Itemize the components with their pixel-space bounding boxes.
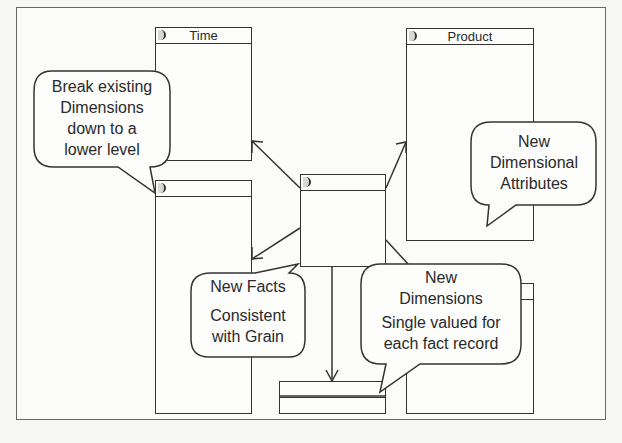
connector-fact-to-lowerright	[386, 240, 408, 264]
callout-new-dimensional-attributes: New Dimensional Attributes	[472, 131, 596, 194]
arrow-fact-to-lowerleft	[252, 228, 300, 259]
callout-new-facts: New Facts Consistent with Grain	[192, 276, 304, 347]
callout-new-dimensions: New Dimensions Single valued for each fa…	[362, 267, 520, 354]
callout-break-existing: Break existing Dimensions down to a lowe…	[36, 76, 168, 160]
arrow-fact-to-product	[386, 142, 406, 188]
connectors-layer	[0, 0, 622, 443]
arrow-fact-to-time	[252, 141, 300, 188]
